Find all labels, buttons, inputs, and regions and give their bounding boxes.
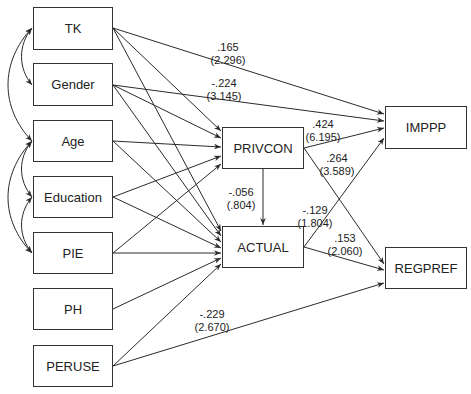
covariance-education-pie [22, 197, 33, 253]
covariance-age-education [22, 141, 33, 197]
covariance-arrows [8, 28, 32, 253]
node-imppp: IMPPP [385, 106, 467, 149]
coef-tk-imppp: .165(2.296) [211, 41, 246, 67]
coef-actual-regpref: .153(2.060) [328, 232, 363, 258]
coef-privcon-imppp: .424(6.195) [306, 118, 341, 144]
arrow-ph-actual [113, 258, 221, 309]
node-pie: PIE [33, 232, 113, 274]
node-ph: PH [33, 288, 113, 330]
coef-peruse-regpref: -.229(2.670) [195, 308, 230, 334]
covariance-tk-gender [22, 28, 33, 85]
arrow-gender-actual [113, 85, 221, 236]
node-tk: TK [33, 7, 113, 50]
arrow-age-actual [113, 141, 221, 242]
arrow-age-privcon [113, 141, 221, 147]
node-age: Age [33, 120, 113, 162]
coef-actual-imppp: -.129(1.804) [298, 204, 333, 230]
arrow-gender-imppp [113, 85, 384, 121]
node-label: PRIVCON [233, 141, 292, 156]
node-label: Age [61, 134, 84, 149]
node-label: Gender [51, 77, 94, 92]
node-label: PERUSE [46, 359, 99, 374]
node-label: REGPREF [395, 261, 458, 276]
coef-gender-imppp: -.224(3.145) [207, 77, 242, 103]
node-peruse: PERUSE [33, 345, 113, 387]
node-privcon: PRIVCON [222, 127, 304, 169]
node-label: ACTUAL [237, 240, 288, 255]
node-label: IMPPP [406, 120, 446, 135]
covariance-tk-age [8, 28, 32, 141]
coef-privcon-actual: -.056(.804) [227, 186, 256, 212]
node-actual: ACTUAL [222, 226, 304, 268]
arrow-pie-privcon [113, 164, 221, 253]
arrow-peruse-regpref [113, 283, 384, 366]
node-regpref: REGPREF [385, 247, 467, 289]
arrow-education-actual [113, 197, 221, 248]
node-label: TK [65, 21, 82, 36]
coef-privcon-regpref: .264(3.589) [320, 152, 355, 178]
node-gender: Gender [33, 63, 113, 106]
node-label: PIE [63, 246, 84, 261]
node-education: Education [33, 176, 113, 218]
node-label: PH [64, 302, 82, 317]
node-label: Education [44, 190, 102, 205]
arrow-tk-imppp [113, 28, 384, 114]
arrow-tk-privcon [113, 28, 221, 131]
covariance-age-pie [8, 141, 32, 253]
